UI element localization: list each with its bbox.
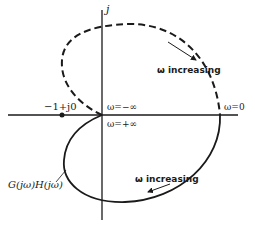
lower-direction-arrow-icon (148, 184, 170, 192)
omega-pos-inf-label: ω=+∞ (107, 119, 137, 129)
curve-function-label: G(jω)H(jω) (8, 179, 63, 190)
upper-direction-label: ω increasing (157, 65, 221, 75)
imaginary-axis-label: j (103, 3, 110, 16)
omega-neg-inf-label: ω=−∞ (107, 102, 137, 112)
critical-point-dot (60, 113, 65, 118)
nyquist-diagram: j −1+j0 ω=−∞ ω=+∞ ω=0 ω increasing ω inc… (0, 0, 255, 227)
lower-direction-label: ω increasing (135, 174, 199, 184)
nyquist-curve-positive-frequency (64, 115, 220, 202)
critical-point-label: −1+j0 (44, 101, 77, 112)
omega-zero-label: ω=0 (224, 102, 245, 112)
upper-direction-arrow-icon (168, 42, 196, 60)
